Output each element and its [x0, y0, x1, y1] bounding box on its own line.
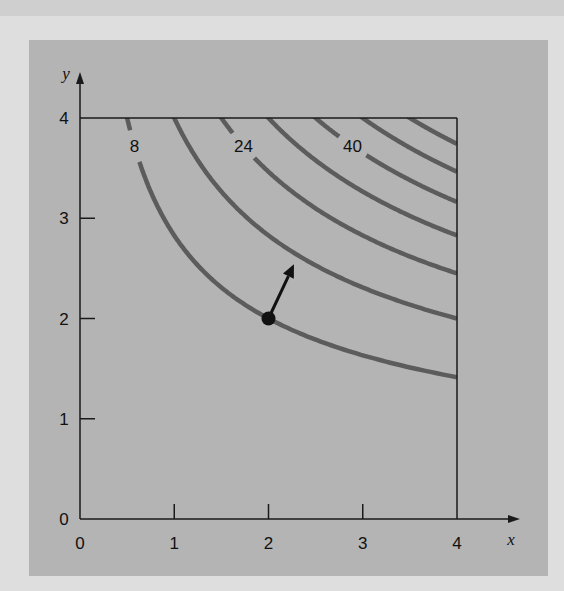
- x-tick-label-4: 4: [452, 534, 461, 553]
- contour-line-32: [264, 113, 457, 236]
- contour-chart: 824400123401234xy: [0, 0, 564, 591]
- contour-line-24-seg1: [218, 113, 233, 133]
- contour-group: [126, 113, 457, 377]
- x-tick-label-1: 1: [170, 534, 179, 553]
- contour-label-8: 8: [130, 137, 139, 156]
- contour-line-40-seg1: [310, 113, 339, 137]
- contour-line-8-seg1: [126, 113, 130, 130]
- y-tick-label-2: 2: [59, 310, 68, 329]
- marks-group: [262, 264, 294, 325]
- y-tick-label-4: 4: [59, 109, 68, 128]
- x-axis-arrow: [508, 515, 520, 523]
- y-axis-label: y: [60, 64, 70, 83]
- y-tick-label-0: 0: [59, 510, 68, 529]
- contour-label-24: 24: [234, 137, 253, 156]
- y-axis-arrow: [76, 72, 84, 84]
- gradient-arrow-shaft: [269, 276, 289, 318]
- y-tick-label-3: 3: [59, 209, 68, 228]
- contour-label-40: 40: [343, 137, 362, 156]
- contour-line-24-seg0: [254, 158, 457, 274]
- contour-line-40-seg0: [366, 155, 457, 202]
- x-tick-label-3: 3: [358, 534, 367, 553]
- contour-line-48: [356, 113, 457, 172]
- data-point: [262, 312, 276, 326]
- y-tick-label-1: 1: [59, 410, 68, 429]
- x-axis-label: x: [506, 530, 515, 549]
- x-tick-label-2: 2: [264, 534, 273, 553]
- x-tick-label-0: 0: [75, 534, 84, 553]
